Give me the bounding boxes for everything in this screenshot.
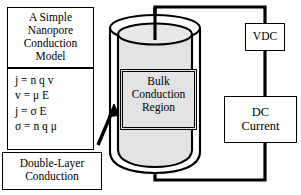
title-line-1: A Simple: [8, 11, 93, 24]
double-layer-conduction-box: Double-Layer Conduction: [2, 152, 102, 190]
vdc-label: VDC: [246, 30, 284, 43]
dc-current-line-1: DC: [225, 105, 296, 119]
equation-box: j = n q v v = μ E j = σ E σ = n q μ: [7, 68, 94, 150]
equation-2: v = μ E: [15, 88, 93, 103]
bulk-line-1: Bulk: [121, 75, 196, 88]
title-line-2: Nanopore: [8, 24, 93, 37]
double-layer-line-1: Double-Layer: [3, 157, 101, 170]
equation-4: σ = n q μ: [15, 119, 93, 134]
dc-current-line-2: Current: [225, 119, 296, 133]
bulk-conduction-region-box: Bulk Conduction Region: [120, 69, 197, 130]
vdc-source-box: VDC: [245, 23, 285, 51]
equation-3: j = σ E: [15, 104, 93, 119]
title-box: A Simple Nanopore Conduction Model: [7, 7, 94, 68]
bulk-line-2: Conduction: [121, 88, 196, 101]
figure-canvas: A Simple Nanopore Conduction Model j = n…: [0, 0, 301, 195]
title-line-3: Conduction: [8, 37, 93, 50]
double-layer-line-2: Conduction: [3, 170, 101, 183]
title-line-4: Model: [8, 50, 93, 63]
bulk-line-3: Region: [121, 101, 196, 114]
dc-current-meter-box: DC Current: [224, 96, 297, 143]
equation-1: j = n q v: [15, 73, 93, 88]
